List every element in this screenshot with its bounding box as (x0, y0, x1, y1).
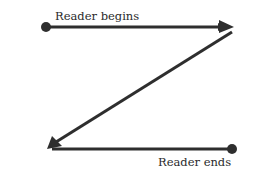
start-label: Reader begins (55, 9, 139, 23)
z-pattern-diagram: Reader begins Reader ends (0, 0, 254, 176)
end-label: Reader ends (158, 155, 231, 169)
top-arrowhead-icon (219, 20, 234, 33)
diagonal-arrow (56, 32, 232, 142)
start-dot-icon (41, 22, 51, 32)
end-dot-icon (227, 144, 237, 154)
